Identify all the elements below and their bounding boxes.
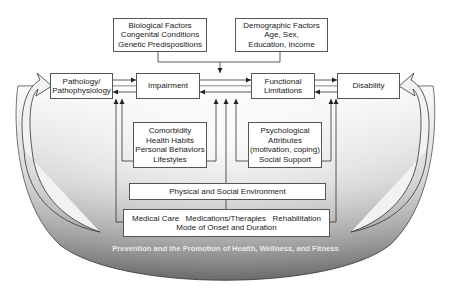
demographic-factors-box: Demographic Factors Age, Sex, Education,… bbox=[235, 18, 328, 52]
box-line: Health Habits bbox=[146, 136, 194, 146]
impairment-box: Impairment bbox=[136, 73, 200, 99]
box-line: (motivation, coping) bbox=[250, 145, 320, 155]
box-line: Congenital Conditions bbox=[121, 30, 199, 40]
box-line: Limitations bbox=[264, 86, 302, 96]
top-factors-connector bbox=[158, 52, 280, 73]
pathology-box: Pathology/ Pathophysiology bbox=[50, 73, 113, 99]
care-item: Rehabilitation bbox=[273, 214, 321, 224]
box-line: Social Support bbox=[259, 155, 311, 165]
box-line: Genetic Predispositions bbox=[118, 40, 202, 50]
care-items-row: Medical Care Medications/Therapies Rehab… bbox=[124, 214, 329, 224]
box-line: Comorbidity bbox=[149, 126, 192, 136]
box-line: Personal Behaviors bbox=[135, 145, 204, 155]
box-line: Demographic Factors bbox=[243, 21, 319, 31]
care-item: Medications/Therapies bbox=[186, 214, 266, 224]
box-line: Education, Income bbox=[248, 40, 314, 50]
biological-factors-box: Biological Factors Congenital Conditions… bbox=[113, 18, 207, 52]
box-line: Disability bbox=[352, 81, 384, 91]
box-line: Functional bbox=[265, 77, 302, 87]
box-line: Impairment bbox=[148, 81, 188, 91]
comorbidity-box: Comorbidity Health Habits Personal Behav… bbox=[133, 122, 207, 168]
functional-limitations-box: Functional Limitations bbox=[251, 73, 315, 99]
box-line: Psychological bbox=[261, 126, 310, 136]
box-line: Pathophysiology bbox=[52, 86, 111, 96]
physical-social-environment-box: Physical and Social Environment bbox=[129, 183, 326, 200]
psychological-attributes-box: Psychological Attributes (motivation, co… bbox=[248, 122, 322, 168]
prevention-label: Prevention and the Promotion of Health, … bbox=[0, 244, 451, 253]
medical-care-box: Medical Care Medications/Therapies Rehab… bbox=[123, 209, 330, 237]
box-line: Age, Sex, bbox=[264, 30, 299, 40]
care-item: Medical Care bbox=[132, 214, 179, 224]
box-line: Pathology/ bbox=[63, 77, 101, 87]
box-line: Attributes bbox=[268, 136, 302, 146]
box-line: Biological Factors bbox=[128, 21, 191, 31]
box-line: Physical and Social Environment bbox=[169, 187, 286, 197]
diagram-canvas bbox=[0, 0, 451, 298]
care-subtitle: Mode of Onset and Duration bbox=[176, 223, 277, 233]
box-line: Lifestyles bbox=[153, 155, 186, 165]
disability-box: Disability bbox=[337, 73, 400, 99]
